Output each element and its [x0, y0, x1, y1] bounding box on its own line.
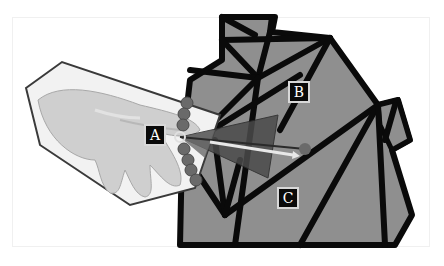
label-a: A: [144, 124, 166, 146]
target-dot: [299, 143, 311, 155]
label-b: B: [288, 81, 310, 103]
label-c: C: [277, 187, 299, 209]
diagram-canvas: [0, 0, 444, 266]
